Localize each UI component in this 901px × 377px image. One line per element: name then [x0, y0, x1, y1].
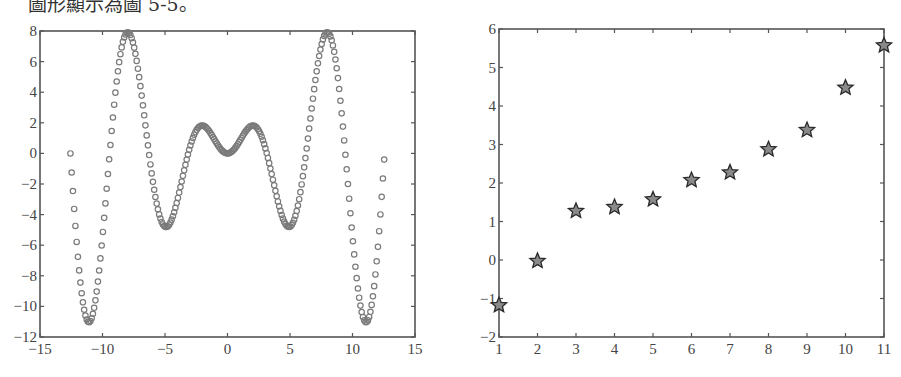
data-point-circle [376, 228, 381, 233]
data-point-circle [273, 188, 278, 193]
data-point-circle [81, 307, 86, 312]
data-point-circle [131, 45, 136, 50]
data-point-circle [379, 194, 384, 199]
left-xtick-label: 5 [286, 341, 294, 357]
data-point-star [722, 164, 737, 178]
data-point-circle [370, 294, 375, 299]
data-point-circle [271, 183, 276, 188]
data-point-circle [315, 61, 320, 66]
data-point-circle [115, 69, 120, 74]
data-point-star [799, 122, 814, 136]
right-xtick-label: 6 [688, 341, 696, 357]
data-point-circle [79, 291, 84, 296]
data-point-circle [335, 75, 340, 80]
left-ytick-label: −12 [14, 329, 37, 345]
data-point-circle [138, 83, 143, 88]
data-point-circle [95, 279, 100, 284]
data-point-circle [109, 128, 114, 133]
data-point-circle [308, 116, 313, 121]
data-point-circle [135, 66, 140, 71]
data-point-circle [100, 229, 105, 234]
data-point-circle [149, 171, 154, 176]
data-point-circle [309, 106, 314, 111]
left-xtick-label: 10 [345, 341, 360, 357]
data-point-circle [378, 212, 383, 217]
left-xtick-label: 15 [408, 341, 423, 357]
data-point-circle [344, 167, 349, 172]
data-point-circle [356, 295, 361, 300]
right-xtick-label: 7 [726, 341, 734, 357]
data-point-circle [73, 223, 78, 228]
data-point-circle [380, 176, 385, 181]
data-point-circle [358, 303, 363, 308]
data-point-circle [334, 66, 339, 71]
data-point-circle [101, 215, 106, 220]
data-point-circle [371, 283, 376, 288]
data-point-circle [80, 300, 85, 305]
data-point-star [876, 37, 891, 51]
data-point-circle [74, 239, 79, 244]
data-point-circle [145, 143, 150, 148]
data-point-circle [318, 47, 323, 52]
data-point-circle [176, 190, 181, 195]
data-point-circle [274, 194, 279, 199]
data-point-circle [139, 93, 144, 98]
data-point-star [761, 141, 776, 155]
data-point-circle [339, 111, 344, 116]
data-point-star [645, 191, 660, 205]
right-ytick-label: 0 [489, 252, 497, 268]
left-ytick-label: −10 [14, 298, 37, 314]
data-point-circle [150, 179, 155, 184]
left-ytick-label: −4 [21, 207, 37, 223]
data-point-circle [98, 256, 103, 261]
left-ytick-label: −6 [21, 237, 37, 253]
data-point-circle [93, 298, 98, 303]
data-point-circle [305, 136, 310, 141]
data-point-circle [108, 142, 113, 147]
right-data-points [491, 37, 891, 311]
data-point-circle [349, 225, 354, 230]
data-point-circle [304, 146, 309, 151]
data-point-circle [268, 166, 273, 171]
right-chart-stars: 1234567891011−2−10123456 [480, 21, 892, 357]
right-ytick-label: 4 [489, 98, 497, 114]
right-ytick-label: −2 [480, 329, 496, 345]
data-point-circle [336, 86, 341, 91]
left-ytick-label: 6 [30, 54, 38, 70]
data-point-circle [140, 103, 145, 108]
data-point-circle [314, 69, 319, 74]
data-point-circle [355, 286, 360, 291]
data-point-circle [68, 151, 73, 156]
data-point-circle [350, 239, 355, 244]
data-point-circle [373, 272, 378, 277]
right-xtick-label: 2 [534, 341, 542, 357]
left-ytick-label: 2 [30, 115, 38, 131]
data-point-circle [296, 196, 301, 201]
data-point-circle [91, 305, 96, 310]
data-point-circle [133, 51, 138, 56]
data-point-circle [381, 157, 386, 162]
data-point-circle [144, 133, 149, 138]
data-point-circle [368, 309, 373, 314]
data-point-circle [114, 79, 119, 84]
data-point-star [607, 199, 622, 213]
data-point-circle [110, 115, 115, 120]
data-point-circle [310, 96, 315, 101]
data-point-circle [311, 86, 316, 91]
data-point-circle [353, 264, 358, 269]
data-point-circle [71, 206, 76, 211]
data-point-circle [75, 254, 80, 259]
data-point-circle [106, 157, 111, 162]
data-point-circle [374, 259, 379, 264]
right-xtick-label: 8 [765, 341, 773, 357]
left-chart-xsinx: −15−10−5051015−12−10−8−6−4−202468 [14, 23, 423, 357]
data-point-circle [303, 155, 308, 160]
right-ytick-label: 3 [489, 137, 497, 153]
left-ytick-label: −2 [21, 176, 37, 192]
data-point-circle [175, 195, 180, 200]
data-point-circle [99, 243, 104, 248]
left-ytick-label: −8 [21, 268, 37, 284]
data-point-circle [354, 275, 359, 280]
data-point-circle [104, 186, 109, 191]
data-point-star [838, 80, 853, 94]
